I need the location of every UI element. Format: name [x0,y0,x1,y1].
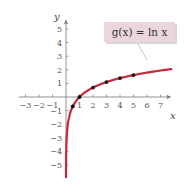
ln-curve-path [66,69,171,177]
x-tick-label: 5 [131,101,136,110]
y-tick-label: 5 [57,25,62,34]
x-tick-label: −2 [33,101,45,110]
y-tick-label: 4 [57,39,62,48]
y-axis-label: y [53,11,60,22]
x-tick-label: 4 [117,101,122,110]
x-tick-label: 7 [158,101,163,110]
y-tick-label: −3 [50,134,62,143]
x-tick-label: 1 [77,101,82,110]
callout-leader-line [137,42,147,60]
y-tick-label: 3 [57,52,62,61]
data-point [91,86,95,90]
data-point [71,104,75,108]
y-tick-label: −1 [50,107,62,116]
data-point [78,95,82,99]
x-axis-label: x [170,110,176,121]
x-tick-label: 2 [90,101,95,110]
data-point [132,73,136,77]
data-point [118,76,122,80]
data-point [105,80,109,84]
ln-graph: −3−2−11234567−5−4−3−2−112345 g(x) = ln x… [0,0,186,192]
y-tick-label: 1 [57,79,62,88]
ln-curve [66,69,171,177]
y-tick-label: 2 [57,66,62,75]
function-label: g(x) = ln x [112,26,168,38]
x-tick-label: 6 [144,101,149,110]
axis-ticks: −3−2−11234567−5−4−3−2−112345 [20,25,163,170]
x-tick-label: 3 [104,101,109,110]
y-tick-label: −5 [50,161,62,170]
y-tick-label: −2 [50,120,62,129]
y-tick-label: −4 [50,147,62,156]
function-label-callout: g(x) = ln x [104,22,177,60]
x-tick-label: −3 [20,101,32,110]
